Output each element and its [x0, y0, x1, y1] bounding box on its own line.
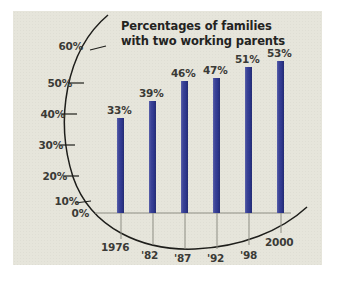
bar-1987 [181, 81, 188, 213]
x-axis-label-1987: '87 [174, 252, 191, 264]
y-axis-label-40: 40% [13, 108, 65, 120]
chart-title: Percentages of families with two working… [121, 19, 311, 48]
plot-area: Percentages of families with two working… [13, 11, 322, 265]
bar-1976 [117, 118, 124, 213]
bar-1982 [149, 101, 156, 213]
y-axis-label-0: 0% [35, 207, 89, 219]
x-axis-label-1992: '92 [207, 252, 224, 264]
y-axis-label-20: 20% [13, 170, 67, 182]
y-axis-label-30: 30% [13, 139, 63, 151]
x-axis-label-1998: '98 [240, 249, 257, 261]
bar-1998 [245, 67, 252, 213]
chart-title-line-1: Percentages of families [121, 19, 311, 34]
chart-panel: Percentages of families with two working… [13, 11, 322, 265]
x-axis-label-2000: 2000 [265, 236, 293, 248]
y-tick-60 [90, 46, 106, 50]
bar-value-label-1998: 51% [235, 53, 260, 65]
x-axis-label-1982: '82 [141, 249, 158, 261]
chart-figure: Percentages of families with two working… [0, 0, 340, 283]
y-axis-label-50: 50% [13, 77, 72, 89]
bar-value-label-1976: 33% [107, 104, 132, 116]
bar-value-label-1992: 47% [203, 64, 228, 76]
bar-2000 [277, 61, 284, 213]
bar-value-label-1982: 39% [139, 87, 164, 99]
y-axis-label-60: 60% [21, 40, 83, 52]
bar-value-label-1987: 46% [171, 67, 196, 79]
bar-value-label-2000: 53% [267, 47, 292, 59]
x-axis-label-1976: 1976 [101, 241, 129, 253]
bar-1992 [213, 78, 220, 213]
y-axis-label-10: 10% [17, 195, 79, 207]
